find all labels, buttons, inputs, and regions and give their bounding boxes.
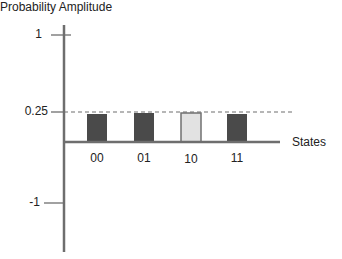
chart-canvas xyxy=(0,0,342,259)
y-tick-label-minus-1: -1 xyxy=(0,195,40,209)
x-label-00: 00 xyxy=(82,151,112,165)
x-label-11: 11 xyxy=(222,151,252,165)
bar-11 xyxy=(227,114,247,142)
bar-01 xyxy=(134,113,154,142)
x-label-01: 01 xyxy=(129,151,159,165)
y-tick-label-0.25: 0.25 xyxy=(8,104,48,118)
x-axis-title: States xyxy=(292,135,326,149)
bar-00 xyxy=(87,114,107,142)
bar-10 xyxy=(181,113,201,142)
x-label-10: 10 xyxy=(176,152,206,166)
y-tick-label-1: 1 xyxy=(2,27,42,41)
